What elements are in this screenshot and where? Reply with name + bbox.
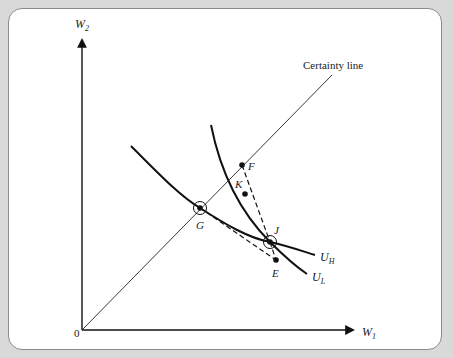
point-k-label: K xyxy=(234,178,243,190)
dashed-f-j xyxy=(242,165,270,242)
x-axis-label: W1 xyxy=(362,325,376,341)
indifference-diagram: 0 W2 W1 Certainty line UH UL F xyxy=(0,0,453,358)
point-k: K xyxy=(234,178,248,197)
curve-u-h: UH xyxy=(131,146,336,266)
point-f-label: F xyxy=(247,160,255,172)
point-g-label: G xyxy=(196,219,204,231)
y-axis-label: W2 xyxy=(75,17,89,33)
point-e: E xyxy=(271,257,279,279)
origin-label: 0 xyxy=(74,327,80,339)
point-f: F xyxy=(239,160,255,172)
curve-u-l-label: UL xyxy=(312,270,326,286)
curve-u-h-label: UH xyxy=(320,250,336,266)
curve-u-l: UL xyxy=(211,125,326,286)
point-e-label: E xyxy=(271,267,279,279)
point-j-label: J xyxy=(274,224,280,236)
certainty-line-label: Certainty line xyxy=(303,59,363,71)
certainty-line: Certainty line xyxy=(82,59,363,330)
